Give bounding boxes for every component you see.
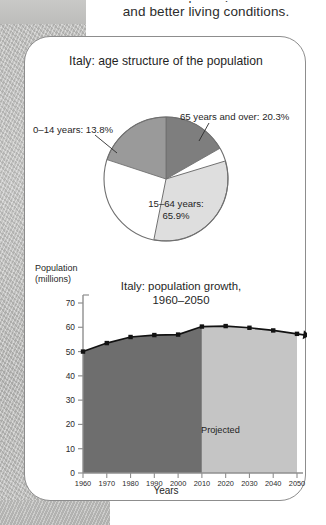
y-tick-label: 40 — [66, 371, 76, 381]
series-arrow-head — [303, 330, 307, 339]
plot-area-fills — [83, 326, 297, 473]
y-tick-label: 50 — [66, 347, 76, 357]
pie-label-65-and-over: 65 years and over: 20.3% — [180, 111, 289, 122]
series-marker — [81, 349, 85, 353]
area-region-historical — [83, 327, 202, 473]
page-margin-texture-bottom — [0, 500, 110, 525]
line-chart-graphic: 1960197019801990200020102020203020402050… — [25, 259, 307, 502]
pie-label-working-age: 15–64 years: 65.9% — [111, 198, 241, 222]
figure-card: Italy: age structure of the population 0… — [24, 36, 306, 501]
pie-chart-figure: Italy: age structure of the population 0… — [25, 37, 307, 259]
pie-chart-graphic — [25, 37, 307, 259]
series-marker — [176, 332, 180, 336]
projected-region-label: Projected — [201, 425, 240, 435]
series-marker — [128, 335, 132, 339]
series-marker — [271, 328, 275, 332]
series-marker — [105, 341, 109, 345]
series-marker — [247, 326, 251, 330]
pie-slice-0-14 — [107, 117, 166, 179]
intro-line: and better living conditions. — [92, 3, 320, 20]
y-tick-label: 30 — [66, 395, 76, 405]
y-tick-label: 10 — [66, 444, 76, 454]
page-margin-texture-top — [0, 0, 86, 24]
intro-paragraph: …and growing… and better living conditio… — [92, 0, 320, 20]
series-marker — [152, 333, 156, 337]
pie-label-working-age-line1: 15–64 years: — [148, 198, 203, 209]
pie-leader-line-young — [95, 135, 117, 153]
x-axis-caption: Years — [25, 485, 307, 496]
population-growth-figure: Population (millions) Italy: population … — [25, 259, 307, 502]
y-tick-label: 70 — [66, 298, 76, 308]
series-marker — [200, 324, 204, 328]
y-tick-label: 60 — [66, 322, 76, 332]
y-tick-label: 0 — [70, 468, 75, 478]
y-tick-label: 20 — [66, 419, 76, 429]
pie-label-0-14: 0–14 years: 13.8% — [33, 124, 113, 135]
y-axis-tick-labels: 010203040506070 — [66, 298, 76, 478]
pie-label-working-age-line2: 65.9% — [162, 210, 189, 221]
series-marker — [223, 324, 227, 328]
area-region-projected — [202, 326, 297, 473]
